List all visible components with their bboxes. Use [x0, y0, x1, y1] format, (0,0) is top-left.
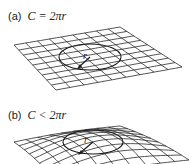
flat-grid [14, 27, 182, 90]
grid-line [49, 135, 103, 164]
curvature-diagram: r r [0, 0, 189, 164]
grid-line [34, 135, 150, 158]
radius-label: r [84, 134, 88, 145]
grid-line [24, 131, 135, 150]
curved-circle-group: r [63, 130, 123, 155]
curved-grid [14, 126, 189, 164]
radius-label: r [83, 50, 87, 61]
grid-line [60, 160, 189, 164]
grid-line [56, 67, 182, 90]
